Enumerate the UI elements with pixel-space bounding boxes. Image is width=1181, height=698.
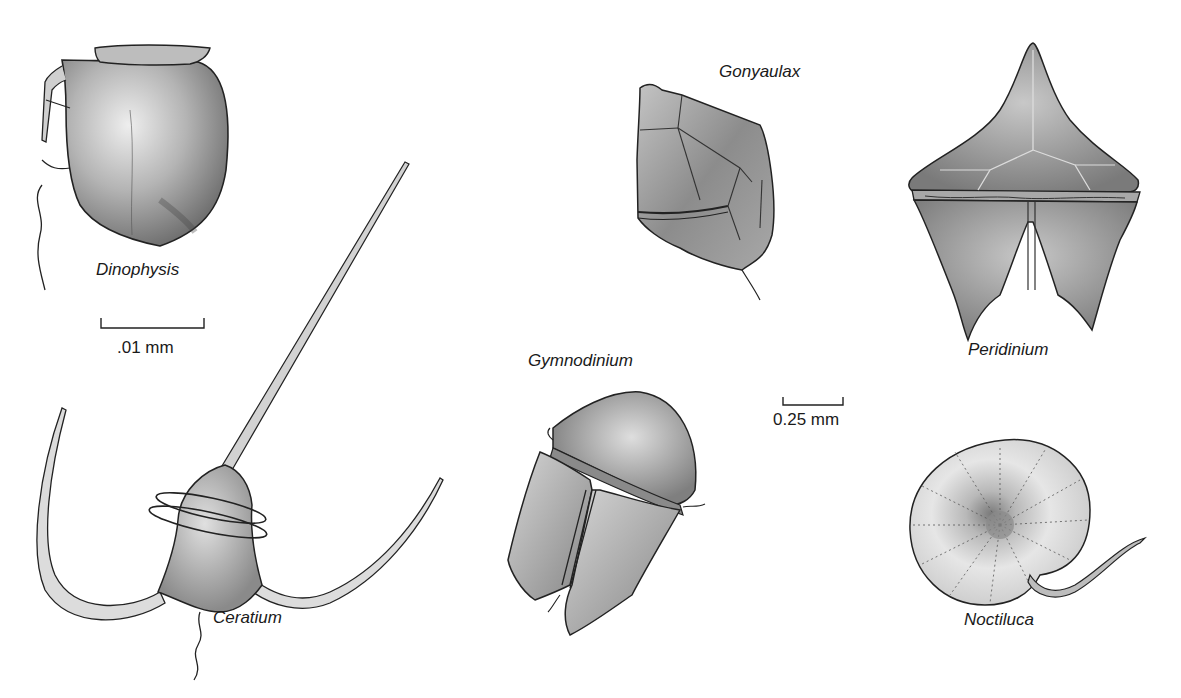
label-dinophysis: Dinophysis [96,260,179,280]
label-gonyaulax: Gonyaulax [719,62,800,82]
label-ceratium: Ceratium [213,608,282,628]
peridinium-drawing [909,43,1140,340]
label-noctiluca: Noctiluca [964,610,1034,630]
scale-label-dinophysis: .01 mm [117,338,174,358]
scale-bar-dinophysis [101,318,204,328]
scale-label-gymnodinium: 0.25 mm [773,410,839,430]
ceratium-drawing [37,162,443,680]
scale-bar-gymnodinium [783,397,843,405]
label-gymnodinium: Gymnodinium [528,351,633,371]
gymnodinium-drawing [508,392,705,635]
gonyaulax-drawing [637,84,774,300]
label-peridinium: Peridinium [968,340,1048,360]
dinophysis-drawing [37,45,228,290]
noctiluca-drawing [910,440,1145,605]
